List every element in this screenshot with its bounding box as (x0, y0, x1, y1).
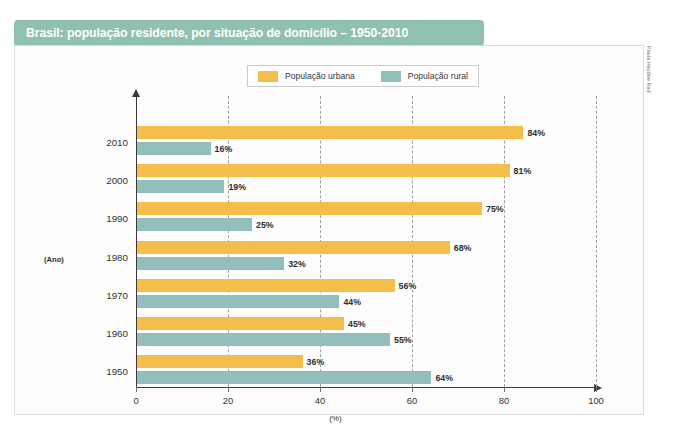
bar-value-label-2010-urbana: 84% (527, 128, 545, 138)
x-tick-80 (504, 387, 505, 392)
legend-item-urbana[interactable]: População urbana (258, 71, 355, 82)
gridline-80 (504, 96, 505, 387)
year-label-1950: 1950 (84, 366, 128, 377)
bar-value-label-1990-rural: 25% (256, 220, 274, 230)
bar-value-label-1970-rural: 44% (343, 297, 361, 307)
x-tick-100 (596, 387, 597, 392)
bar-1990-rural[interactable] (137, 218, 252, 231)
x-tick-label-80: 80 (499, 395, 509, 406)
bar-1990-urbana[interactable] (137, 202, 482, 215)
x-tick-40 (320, 387, 321, 392)
bar-value-label-1950-rural: 64% (435, 373, 453, 383)
bar-2010-rural[interactable] (137, 142, 211, 155)
x-tick-label-60: 60 (407, 395, 417, 406)
year-label-1970: 1970 (84, 290, 128, 301)
bar-1970-rural[interactable] (137, 295, 339, 308)
bar-1960-rural[interactable] (137, 333, 390, 346)
x-tick-0 (136, 387, 137, 392)
page-title: Brasil: população residente, por situaçã… (26, 26, 408, 40)
bar-value-label-1990-urbana: 75% (486, 204, 504, 214)
bar-value-label-1960-urbana: 45% (348, 319, 366, 329)
legend-label-rural: População rural (408, 71, 468, 81)
bar-value-label-1950-urbana: 36% (307, 357, 325, 367)
bar-1950-urbana[interactable] (137, 355, 303, 368)
y-axis-arrow-icon (132, 89, 140, 97)
x-tick-label-0: 0 (133, 395, 138, 406)
bar-value-label-2000-rural: 19% (228, 182, 246, 192)
plot-area: 020406080100 84%16%81%19%75%25%68%32%56%… (136, 96, 606, 388)
year-label-1980: 1980 (84, 252, 128, 263)
bar-value-label-2000-urbana: 81% (514, 166, 532, 176)
bar-value-label-2010-rural: 16% (215, 144, 233, 154)
x-tick-label-100: 100 (588, 395, 604, 406)
legend-swatch-rural (381, 71, 401, 82)
chart-legend: População urbana População rural (247, 65, 479, 87)
bar-2000-urbana[interactable] (137, 164, 510, 177)
bar-1970-urbana[interactable] (137, 279, 395, 292)
bar-value-label-1970-urbana: 56% (399, 281, 417, 291)
bar-1960-urbana[interactable] (137, 317, 344, 330)
x-axis-title: (%) (329, 414, 341, 423)
bar-1980-rural[interactable] (137, 257, 284, 270)
x-tick-60 (412, 387, 413, 392)
year-label-1990: 1990 (84, 213, 128, 224)
bar-value-label-1960-rural: 55% (394, 335, 412, 345)
gridline-100 (596, 96, 597, 387)
x-tick-label-20: 20 (223, 395, 233, 406)
bar-2000-rural[interactable] (137, 180, 224, 193)
year-label-1960: 1960 (84, 328, 128, 339)
illustrator-credit: Paula Haydee Rad (646, 46, 652, 93)
bar-value-label-1980-urbana: 68% (454, 243, 472, 253)
legend-item-rural[interactable]: População rural (381, 71, 468, 82)
bar-1950-rural[interactable] (137, 371, 431, 384)
bar-value-label-1980-rural: 32% (288, 259, 306, 269)
y-axis-title: (Ano) (44, 255, 64, 264)
bar-2010-urbana[interactable] (137, 126, 523, 139)
legend-label-urbana: População urbana (285, 71, 355, 81)
x-tick-20 (228, 387, 229, 392)
x-tick-label-40: 40 (315, 395, 325, 406)
chart-title-bar: Brasil: população residente, por situaçã… (14, 20, 484, 46)
x-axis-line (136, 387, 596, 388)
year-label-2010: 2010 (84, 137, 128, 148)
bar-1980-urbana[interactable] (137, 241, 450, 254)
legend-swatch-urbana (258, 71, 278, 82)
year-label-2000: 2000 (84, 175, 128, 186)
